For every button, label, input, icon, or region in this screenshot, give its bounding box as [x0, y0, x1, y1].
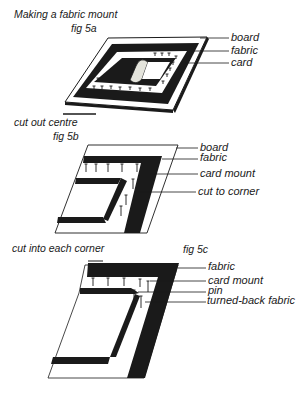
fig-5b-caption: fig 5b — [53, 131, 79, 142]
fig-5c-drawing — [48, 261, 206, 378]
fig-5b-label-card-mount: card mount — [200, 168, 255, 179]
fig-5b-label-cut-to-corner: cut to corner — [198, 186, 259, 197]
fig-5c-caption: fig 5c — [183, 244, 208, 255]
fig-5a-drawing — [63, 37, 229, 114]
fig-5a-label-card: card — [231, 57, 252, 68]
fig-5b-label-fabric: fabric — [200, 152, 227, 163]
fig-5c-label-turned-back-fabric: turned-back fabric — [207, 295, 295, 306]
fig-5a-label-board: board — [231, 32, 259, 43]
fig-5b-note: cut into each corner — [12, 243, 104, 254]
fig-5a-label-fabric: fabric — [231, 45, 258, 56]
fig-5a-note: cut out centre — [14, 117, 78, 128]
fabric-mount-diagram — [0, 0, 303, 394]
fig-5c-label-fabric: fabric — [208, 261, 235, 272]
diagram-title: Making a fabric mount — [14, 9, 117, 20]
fig-5a-caption: fig 5a — [71, 23, 97, 34]
fig-5b-drawing — [55, 145, 198, 233]
